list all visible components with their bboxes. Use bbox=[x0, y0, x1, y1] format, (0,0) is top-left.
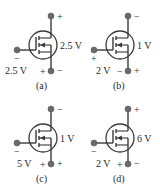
drain-bottom-sign: + bbox=[57, 158, 63, 169]
drain-bottom-sign: + bbox=[134, 65, 140, 76]
drain-top-sign: + bbox=[134, 104, 140, 115]
vds-label: 1 V bbox=[137, 40, 152, 51]
caption-b: (b) bbox=[113, 80, 125, 92]
source-left-sign: + bbox=[117, 159, 123, 170]
vgs-label: 2 V bbox=[96, 65, 111, 76]
caption-d: (d) bbox=[113, 173, 125, 185]
drain-bottom-sign: − bbox=[57, 65, 63, 76]
mosfet-figure: + 2.5 V − − 2.5 V + (a) − 1 V + + 2 V − … bbox=[0, 0, 160, 190]
circuit-b: − 1 V + + 2 V − (b) bbox=[91, 11, 152, 92]
drain-top-sign: + bbox=[57, 11, 63, 22]
circuit-c: − 1 V + − 5 V + (c) bbox=[14, 104, 75, 185]
circuit-d: + 6 V − − 2 V + (d) bbox=[91, 104, 152, 185]
source-left-sign: + bbox=[40, 66, 46, 77]
drain-top-sign: − bbox=[134, 11, 140, 22]
gate-sign: − bbox=[14, 146, 20, 157]
source-left-sign: − bbox=[117, 66, 123, 77]
vds-label: 6 V bbox=[137, 133, 152, 144]
vgs-label: 5 V bbox=[17, 158, 32, 169]
vgs-label: 2 V bbox=[96, 158, 111, 169]
vgs-label: 2.5 V bbox=[5, 65, 28, 76]
caption-a: (a) bbox=[36, 80, 47, 92]
caption-c: (c) bbox=[36, 173, 47, 185]
gate-sign: + bbox=[91, 53, 97, 64]
vds-label: 2.5 V bbox=[60, 40, 83, 51]
drain-bottom-sign: − bbox=[134, 158, 140, 169]
vds-label: 1 V bbox=[60, 133, 75, 144]
source-left-sign: + bbox=[40, 159, 46, 170]
gate-sign: − bbox=[91, 146, 97, 157]
circuit-a: + 2.5 V − − 2.5 V + (a) bbox=[5, 11, 83, 92]
gate-sign: − bbox=[14, 53, 20, 64]
drain-top-sign: − bbox=[57, 104, 63, 115]
